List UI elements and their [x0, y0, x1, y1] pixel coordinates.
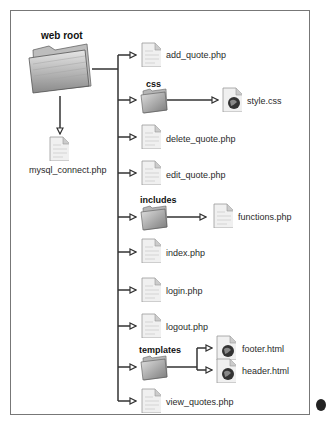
- header-html-label: header.html: [242, 366, 289, 376]
- add-quote-label: add_quote.php: [166, 50, 226, 60]
- cropped-edge-glyph: [316, 399, 326, 411]
- templates-folder-label: templates: [139, 345, 181, 355]
- delete-quote-label: delete_quote.php: [166, 134, 236, 144]
- view-quotes-label: view_quotes.php: [166, 397, 234, 407]
- style-css-label: style.css: [247, 96, 282, 106]
- logout-label: logout.php: [166, 322, 208, 332]
- edit-quote-file-icon[interactable]: [141, 160, 161, 185]
- includes-folder-icon[interactable]: [140, 205, 168, 231]
- login-file-icon[interactable]: [141, 277, 161, 302]
- includes-folder-label: includes: [140, 195, 177, 205]
- root-folder-label: web root: [41, 30, 83, 41]
- logout-file-icon[interactable]: [141, 313, 161, 338]
- footer-html-label: footer.html: [242, 344, 284, 354]
- root-folder-icon[interactable]: [25, 42, 93, 94]
- functions-label: functions.php: [238, 212, 292, 222]
- view-quotes-file-icon[interactable]: [141, 388, 161, 413]
- templates-folder-icon[interactable]: [140, 355, 168, 381]
- index-file-icon[interactable]: [141, 238, 161, 263]
- mysql-connect-file-icon[interactable]: [49, 136, 69, 161]
- footer-html-web-file-icon[interactable]: [216, 335, 236, 360]
- mysql-connect-label: mysql_connect.php: [29, 165, 107, 175]
- style-css-web-file-icon[interactable]: [222, 87, 242, 112]
- add-quote-file-icon[interactable]: [141, 42, 161, 67]
- edit-quote-label: edit_quote.php: [166, 170, 226, 180]
- css-folder-icon[interactable]: [140, 88, 168, 114]
- delete-quote-file-icon[interactable]: [141, 124, 161, 149]
- login-label: login.php: [166, 286, 203, 296]
- header-html-web-file-icon[interactable]: [216, 358, 236, 383]
- index-label: index.php: [166, 248, 205, 258]
- functions-file-icon[interactable]: [213, 203, 233, 228]
